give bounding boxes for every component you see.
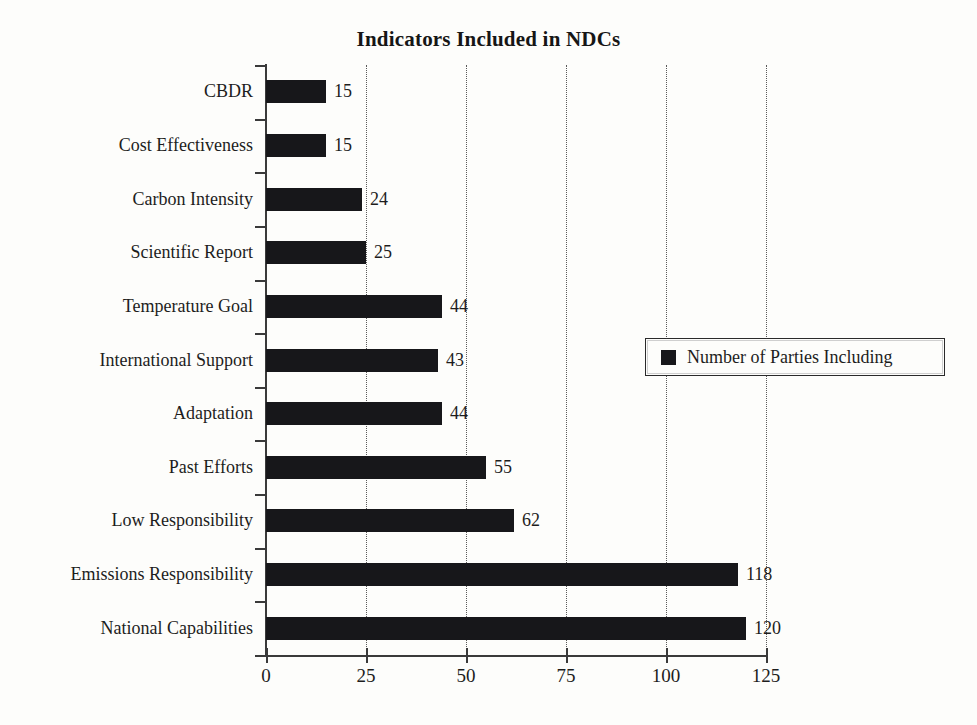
y-axis-label-text: Adaptation	[173, 402, 253, 425]
legend-swatch-icon	[661, 350, 676, 365]
bar-chart: Indicators Included in NDCs CBDRCost Eff…	[0, 0, 977, 725]
y-axis-label-text: CBDR	[204, 80, 253, 103]
x-axis-tick-label: 25	[326, 665, 406, 687]
y-axis-label: Cost Effectiveness	[0, 134, 253, 157]
bar	[266, 188, 362, 211]
y-axis-tick	[255, 494, 266, 496]
bar	[266, 241, 366, 264]
legend-entry-label: Number of Parties Including	[687, 347, 892, 368]
y-axis-tick	[255, 226, 266, 228]
y-axis-label-text: National Capabilities	[101, 617, 253, 640]
y-axis-label-text: Scientific Report	[131, 241, 253, 264]
y-axis-label-text: Low Responsibility	[111, 509, 253, 532]
x-axis-tick	[666, 648, 668, 663]
y-axis-label: Low Responsibility	[0, 509, 253, 532]
y-axis-tick	[255, 548, 266, 550]
bar-value-label: 120	[754, 617, 781, 640]
y-axis-label-text: Past Efforts	[169, 456, 253, 479]
y-axis-label-text: Cost Effectiveness	[119, 134, 253, 157]
bar	[266, 509, 514, 532]
bar-value-label: 25	[374, 241, 392, 264]
x-axis-tick	[266, 648, 268, 663]
chart-legend: Number of Parties Including	[645, 338, 945, 376]
x-axis-tick	[766, 648, 768, 663]
bar	[266, 80, 326, 103]
bar-value-label: 24	[370, 188, 388, 211]
bar	[266, 295, 442, 318]
chart-title: Indicators Included in NDCs	[0, 27, 977, 52]
x-axis-tick-label: 125	[726, 665, 806, 687]
y-axis-label: Emissions Responsibility	[0, 563, 253, 586]
y-axis-tick	[255, 387, 266, 389]
y-axis-label: CBDR	[0, 80, 253, 103]
y-axis-label-text: Carbon Intensity	[133, 188, 253, 211]
y-axis-label: National Capabilities	[0, 617, 253, 640]
x-axis-tick-label: 100	[626, 665, 706, 687]
bar-value-label: 55	[494, 456, 512, 479]
y-axis-tick	[255, 333, 266, 335]
y-axis-tick	[255, 172, 266, 174]
x-axis-tick-label: 0	[226, 665, 306, 687]
bar-value-label: 44	[450, 295, 468, 318]
bar	[266, 402, 442, 425]
y-axis-tick	[255, 280, 266, 282]
bar-value-label: 44	[450, 402, 468, 425]
legend-entry: Number of Parties Including	[647, 340, 943, 374]
bar-value-label: 62	[522, 509, 540, 532]
y-axis-label: Carbon Intensity	[0, 188, 253, 211]
x-axis-tick	[366, 648, 368, 663]
y-axis-label: Past Efforts	[0, 456, 253, 479]
x-axis-tick	[466, 648, 468, 663]
x-axis-line	[265, 655, 767, 657]
y-axis-tick	[255, 655, 266, 657]
x-axis-tick-label: 75	[526, 665, 606, 687]
bar-value-label: 15	[334, 134, 352, 157]
x-axis-tick	[566, 648, 568, 663]
y-axis-label-text: International Support	[100, 349, 253, 372]
bar-value-label: 118	[746, 563, 772, 586]
bar	[266, 617, 746, 640]
x-axis-tick-label: 50	[426, 665, 506, 687]
y-axis-label: Scientific Report	[0, 241, 253, 264]
y-axis-tick	[255, 601, 266, 603]
bar	[266, 563, 738, 586]
y-axis-tick	[255, 119, 266, 121]
y-axis-tick	[255, 65, 266, 67]
bar	[266, 134, 326, 157]
bar-value-label: 15	[334, 80, 352, 103]
bar	[266, 349, 438, 372]
bar	[266, 456, 486, 479]
y-axis-label-text: Emissions Responsibility	[70, 563, 253, 586]
y-axis-tick	[255, 440, 266, 442]
bar-value-label: 43	[446, 349, 464, 372]
y-axis-label: International Support	[0, 349, 253, 372]
y-axis-label-text: Temperature Goal	[123, 295, 253, 318]
y-axis-label: Temperature Goal	[0, 295, 253, 318]
y-axis-label: Adaptation	[0, 402, 253, 425]
